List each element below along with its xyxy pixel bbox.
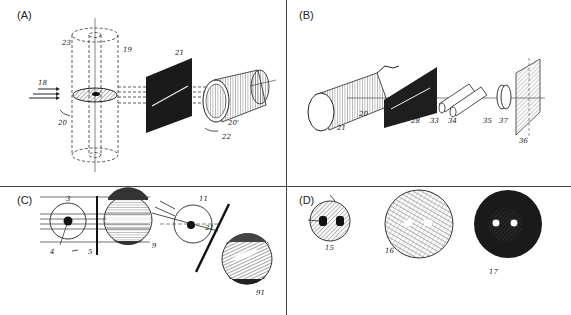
svg-text:4: 4 [49,248,54,256]
panel-c-drawing: 3 4 5 9 11 21 91 [0,187,286,315]
panel-c: (C) [0,187,286,315]
svg-text:18: 18 [38,79,47,87]
svg-text:37: 37 [499,117,508,125]
svg-text:35: 35 [483,117,492,125]
panel-a: (A) [0,0,286,186]
svg-text:33: 33 [430,117,439,125]
svg-text:20: 20 [57,119,67,127]
panel-a-drawing: 23 19 18 20 21 20' 22 [0,0,286,186]
svg-text:21: 21 [336,124,346,132]
svg-text:3: 3 [66,195,71,203]
svg-text:20: 20 [358,110,368,118]
svg-text:11: 11 [199,195,208,203]
svg-text:16: 16 [385,247,394,255]
panel-d-drawing: 15 16 17 [287,187,571,315]
panel-b-drawing: 21 20 28 33 34 35 37 36 [287,0,571,186]
svg-text:15: 15 [325,244,334,252]
svg-text:36: 36 [519,137,528,145]
svg-text:20': 20' [227,119,239,127]
svg-text:21: 21 [174,49,184,57]
svg-text:9: 9 [152,242,157,250]
svg-text:19: 19 [123,46,132,54]
panel-b: (B) 21 20 28 [287,0,571,186]
svg-text:21: 21 [204,224,214,232]
svg-text:34: 34 [448,117,457,125]
svg-text:91: 91 [256,289,265,297]
svg-text:28: 28 [410,117,420,125]
panel-d: (D) 15 16 17 [287,187,571,315]
svg-text:5: 5 [88,248,93,256]
svg-text:23: 23 [61,39,71,47]
svg-text:17: 17 [489,268,498,276]
svg-text:22: 22 [221,133,231,141]
